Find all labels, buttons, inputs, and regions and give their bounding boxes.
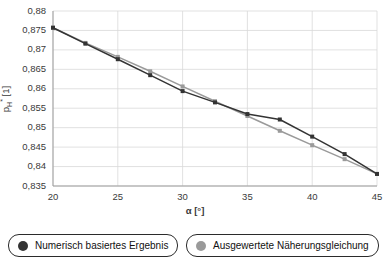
chart-legend: Numerisch basiertes Ergebnis Ausgewertet… <box>0 230 390 266</box>
legend-marker-icon <box>18 241 28 251</box>
y-axis-tick-label: 0,84 <box>6 160 46 171</box>
y-axis-tick-label: 0,85 <box>6 121 46 132</box>
legend-item-numerisch[interactable]: Numerisch basiertes Ergebnis <box>8 234 178 257</box>
legend-label: Ausgewertete Näherungsgleichung <box>213 240 369 251</box>
y-axis-tick-label: 0,88 <box>6 5 46 16</box>
x-axis-tick-label: 35 <box>230 191 264 202</box>
legend-marker-icon <box>196 241 206 251</box>
legend-label: Numerisch basiertes Ergebnis <box>35 240 168 251</box>
legend-item-naeherungsgleichung[interactable]: Ausgewertete Näherungsgleichung <box>186 234 379 257</box>
x-axis-tick-label: 40 <box>295 191 329 202</box>
y-axis-tick-label: 0,865 <box>6 63 46 74</box>
x-axis-tick-label: 30 <box>166 191 200 202</box>
x-axis-tick-label: 20 <box>36 191 70 202</box>
y-axis-tick-label: 0,845 <box>6 141 46 152</box>
x-axis-title: α [°] <box>163 205 227 216</box>
y-axis-tick-label: 0,87 <box>6 43 46 54</box>
y-axis-tick-label: 0,835 <box>6 180 46 191</box>
x-axis-tick-label: 45 <box>360 191 390 202</box>
chart-plot: pH* [1] α [°] 0,880,8750,870,8650,860,85… <box>0 0 390 226</box>
y-axis-tick-label: 0,855 <box>6 102 46 113</box>
y-axis-tick-label: 0,875 <box>6 24 46 35</box>
y-axis-tick-label: 0,86 <box>6 82 46 93</box>
x-axis-tick-label: 25 <box>101 191 135 202</box>
